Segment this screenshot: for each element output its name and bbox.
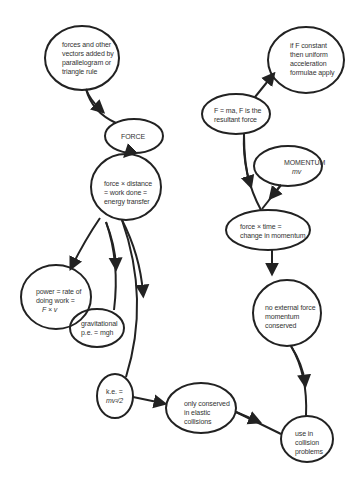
node-text-line: in elastic — [184, 408, 230, 417]
node-text-line: then uniform — [290, 50, 335, 59]
node-text-line: F × v — [36, 305, 81, 314]
node-text-line: collision — [295, 438, 323, 447]
node-text-line: MOMENTUM — [284, 158, 325, 167]
node-text-line: only conserved — [184, 399, 230, 408]
edge-force-work — [127, 153, 128, 154]
node-collision-label: use in collision problems — [295, 429, 323, 456]
node-gpe-label: gravitational p.e. = mgh — [81, 319, 117, 337]
edge-vectors-force — [86, 89, 116, 123]
node-text-line: no external force — [265, 303, 315, 312]
node-text-line: momentum — [265, 312, 315, 321]
node-text-line: k.e. = — [106, 387, 123, 396]
node-conserved-label: no external force momentum conserved — [265, 303, 315, 330]
node-text-line: FORCE — [121, 132, 145, 141]
node-text-line: power = rate of — [36, 287, 81, 296]
node-text-line: use in — [295, 429, 323, 438]
node-text-line: conserved — [265, 321, 315, 330]
node-impulse-label: force × time = change in momentum — [240, 222, 306, 240]
node-text-line: parallelogram or — [62, 58, 114, 67]
node-text-line: = work done = — [104, 188, 152, 197]
node-momentum-label: MOMENTUM mv — [284, 158, 325, 176]
node-text-line: doing work = — [36, 296, 81, 305]
node-text-line: force × time = — [240, 222, 306, 231]
node-force-label: FORCE — [121, 132, 145, 141]
node-text-line: change in momentum — [240, 231, 306, 240]
edge-work-ke — [122, 220, 137, 377]
node-text-line: F = ma, F is the — [214, 106, 261, 115]
node-text-line: resultant force — [214, 115, 261, 124]
node-ke-label: k.e. = mv²/2 — [106, 387, 123, 405]
node-text-line: forces and other — [62, 40, 114, 49]
node-text-line: mv — [284, 167, 325, 176]
edge-fma-constant — [255, 76, 272, 97]
node-text-line: if F constant — [290, 41, 335, 50]
node-text-line: triangle rule — [62, 67, 114, 76]
edge-ke-elastic — [133, 397, 162, 403]
node-text-line: collisions — [184, 417, 230, 426]
node-text-line: force × distance — [104, 179, 152, 188]
edge-work-power — [72, 218, 100, 266]
node-constant-label: if F constant then uniform acceleration … — [290, 41, 335, 77]
node-text-line: vectors added by — [62, 49, 114, 58]
node-work-label: force × distance = work done = energy tr… — [104, 179, 152, 206]
node-fma-label: F = ma, F is the resultant force — [214, 106, 261, 124]
node-text-line: acceleration — [290, 59, 335, 68]
node-power-label: power = rate of doing work = F × v — [36, 287, 81, 314]
node-text-line: problems — [295, 447, 323, 456]
node-text-line: gravitational — [81, 319, 117, 328]
node-text-line: p.e. = mgh — [81, 328, 117, 337]
node-text-line: mv²/2 — [106, 396, 123, 405]
node-text-line: energy transfer — [104, 197, 152, 206]
node-vectors-label: forces and other vectors added by parall… — [62, 40, 114, 76]
node-elastic-label: only conserved in elastic collisions — [184, 399, 230, 426]
node-text-line: formulae apply — [290, 68, 335, 77]
